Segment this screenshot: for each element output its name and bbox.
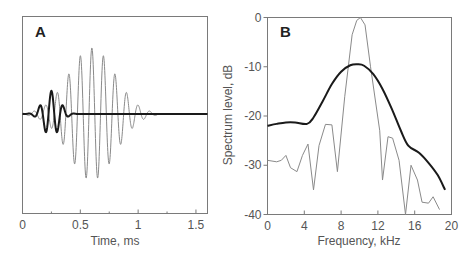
panel-b: B 048121620 0-10-20-30-40 Frequency, kHz… <box>221 11 458 249</box>
panel-b-frame <box>268 18 452 215</box>
panel-a-x-ticks <box>23 210 196 214</box>
x-tick-label: 16 <box>408 219 422 233</box>
x-tick-label: 0 <box>19 218 26 232</box>
panel-a: A 00.511.5 Time, ms <box>19 17 207 249</box>
x-tick-label: 8 <box>338 219 345 233</box>
x-tick-label: 0.5 <box>72 218 89 232</box>
x-tick-label: 4 <box>301 219 308 233</box>
y-tick-label: -10 <box>244 60 262 74</box>
panel-b-x-axis-label: Frequency, kHz <box>317 234 400 248</box>
panel-b-thick-spectrum <box>268 64 446 190</box>
y-tick-label: -20 <box>244 109 262 123</box>
x-tick-label: 1 <box>135 218 142 232</box>
panel-b-label: B <box>280 23 291 40</box>
panel-a-x-tick-labels: 00.511.5 <box>19 218 204 232</box>
panel-b-x-tick-labels: 048121620 <box>264 219 458 233</box>
y-tick-label: -30 <box>244 158 262 172</box>
panel-b-thin-spectrum <box>268 18 440 215</box>
x-tick-label: 0 <box>264 219 271 233</box>
y-tick-label: 0 <box>255 11 262 25</box>
figure: A 00.511.5 Time, ms B 048121620 0-10-20-… <box>0 0 471 264</box>
x-tick-label: 1.5 <box>188 218 205 232</box>
x-tick-label: 12 <box>371 219 385 233</box>
panel-a-x-axis-label: Time, ms <box>91 234 140 248</box>
y-tick-label: -40 <box>244 208 262 222</box>
panel-b-y-axis-label: Spectrum level, dB <box>221 65 235 166</box>
x-tick-label: 20 <box>445 219 459 233</box>
panel-b-ticks <box>264 18 452 215</box>
panel-b-y-tick-labels: 0-10-20-30-40 <box>244 11 262 222</box>
panel-a-label: A <box>35 23 46 40</box>
